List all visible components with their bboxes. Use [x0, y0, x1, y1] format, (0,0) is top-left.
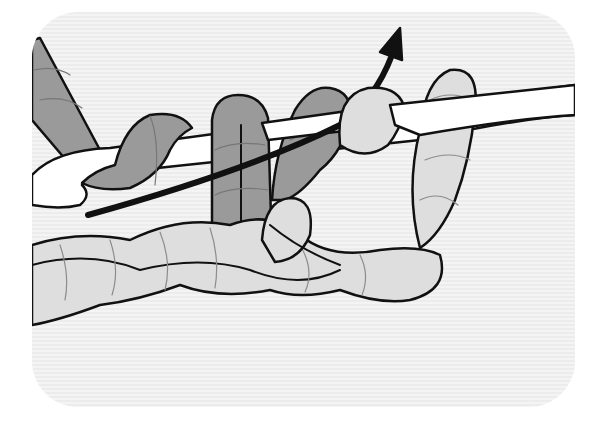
- crochet-illustration: [0, 0, 607, 433]
- yarn-chain: [32, 219, 442, 325]
- yarn-loop-dark-2: [272, 88, 350, 200]
